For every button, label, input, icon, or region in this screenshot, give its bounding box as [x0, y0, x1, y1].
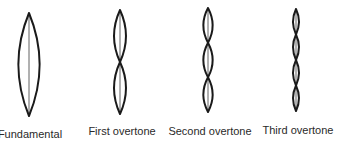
mode-second-overtone [203, 8, 212, 112]
label-first-overtone: First overtone [88, 126, 155, 137]
label-third-overtone: Third overtone [263, 125, 334, 136]
mode-fundamental [18, 13, 39, 116]
mode-third-overtone [293, 9, 299, 111]
label-fundamental: Fundamental [0, 129, 62, 140]
mode-first-overtone [114, 10, 126, 114]
label-second-overtone: Second overtone [168, 126, 251, 137]
